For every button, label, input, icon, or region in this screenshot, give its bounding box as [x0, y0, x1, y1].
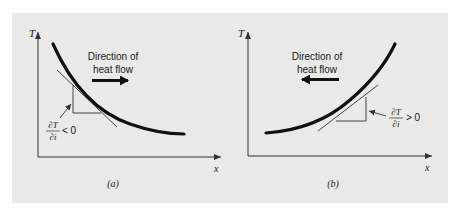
- y-axis-label-a: T: [29, 27, 36, 39]
- gradient-numerator-a: ∂T: [48, 120, 58, 130]
- heat-flow-diagram: T x Direction of heat flow ∂T ∂i < 0 (a)…: [0, 0, 457, 213]
- x-axis-label-a: x: [213, 163, 219, 174]
- caption-a: (a): [107, 178, 119, 190]
- gradient-denominator-a: ∂i: [50, 132, 57, 142]
- gradient-relation-a: < 0: [62, 125, 77, 136]
- tangent-line-a: [57, 70, 117, 127]
- x-axis-label-b: x: [424, 162, 430, 173]
- gradient-numerator-b: ∂T: [391, 107, 401, 117]
- caption-b: (b): [327, 178, 339, 190]
- gradient-pointer-a: [60, 104, 71, 118]
- direction-label-line1-a: Direction of: [88, 51, 139, 62]
- panel-a: T x Direction of heat flow ∂T ∂i < 0 (a): [29, 27, 221, 190]
- direction-label-line2-a: heat flow: [93, 64, 134, 75]
- gradient-relation-b: > 0: [406, 112, 421, 123]
- direction-label-line1-b: Direction of: [292, 51, 343, 62]
- tangent-line-b: [318, 85, 378, 131]
- gradient-denominator-b: ∂i: [393, 119, 400, 129]
- y-axis-label-b: T: [238, 27, 245, 39]
- direction-label-line2-b: heat flow: [297, 64, 338, 75]
- gradient-pointer-b: [369, 111, 386, 116]
- panel-b: T x Direction of heat flow ∂T ∂i > 0 (b): [238, 27, 432, 190]
